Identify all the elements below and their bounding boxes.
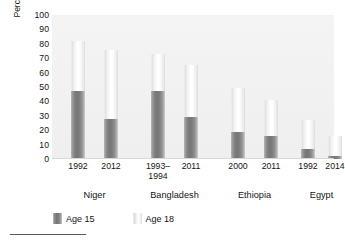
y-axis-tick-label: 80: [39, 39, 49, 48]
bar-group: [264, 15, 278, 159]
stacked-bar: [328, 136, 342, 159]
x-axis-tick-label: 2000: [228, 161, 247, 171]
group-label-ethiopia: Ethiopia: [238, 190, 271, 201]
bar-segment-age18: [231, 88, 245, 131]
legend-swatch-age-18: [133, 213, 142, 224]
bar-group: [71, 15, 85, 159]
bar-group: [104, 15, 118, 159]
bar-segment-age15: [184, 117, 198, 159]
y-axis-tick-label: 100: [35, 11, 50, 20]
stacked-bar: [104, 50, 118, 159]
group-label-egypt: Egypt: [310, 190, 334, 201]
y-axis-tick-label: 70: [39, 54, 49, 63]
bar-group: [328, 15, 342, 159]
y-axis-title-line-1: Percent of young women: [12, 0, 23, 17]
bar-segment-age15: [231, 132, 245, 159]
bar-segment-age15: [301, 149, 315, 159]
y-axis-tick-label: 0: [44, 155, 49, 164]
footnote-rule: [10, 234, 86, 235]
group-label-bangladesh: Bangladesh: [150, 190, 199, 201]
legend-label: Age 18: [146, 214, 175, 224]
stacked-bar: [301, 120, 315, 159]
stacked-bar: [264, 100, 278, 159]
bar-segment-age18: [264, 100, 278, 136]
y-axis-tick-labels: 1009080706050403020100: [27, 14, 49, 159]
y-axis-tick-label: 60: [39, 68, 49, 77]
bar-segment-age18: [71, 41, 85, 91]
legend-label: Age 15: [66, 214, 95, 224]
x-axis-tick-label: 2012: [101, 161, 120, 171]
y-axis-tick-label: 50: [39, 83, 49, 92]
y-axis-tick-label: 20: [39, 126, 49, 135]
x-axis-tick-label: 2011: [182, 161, 201, 171]
bar-segment-age15: [151, 91, 165, 159]
legend-item: Age 18: [133, 212, 175, 225]
bar-segment-age18: [184, 65, 198, 117]
bar-segment-age18: [328, 136, 342, 156]
bar-segment-age15: [71, 91, 85, 159]
stacked-bar: [71, 41, 85, 159]
stacked-bar: [151, 54, 165, 159]
x-axis-tick-label: 1992: [298, 161, 317, 171]
stacked-bar: [231, 88, 245, 159]
chart-legend: Age 15Age 18: [53, 212, 174, 225]
y-axis-tick-label: 90: [39, 25, 49, 34]
bar-group: [231, 15, 245, 159]
y-axis-tick-label: 30: [39, 111, 49, 120]
bar-segment-age18: [104, 50, 118, 119]
stacked-bar: [184, 65, 198, 159]
bar-segment-age15: [264, 136, 278, 159]
y-axis-tick-label: 10: [39, 140, 49, 149]
bar-group: [151, 15, 165, 159]
y-axis-tick-label: 40: [39, 97, 49, 106]
bar-segment-age18: [151, 54, 165, 91]
x-axis-tick-labels: 199220121993– 199420112000201119922014: [52, 161, 334, 187]
bar-segment-age15: [104, 119, 118, 159]
plot-area: [52, 15, 334, 159]
bar-group: [184, 15, 198, 159]
x-axis-tick-label: 1993– 1994: [146, 161, 170, 181]
x-axis-group-labels: NigerBangladeshEthiopiaEgypt: [52, 190, 334, 204]
bar-group: [301, 15, 315, 159]
x-axis-tick-label: 2011: [262, 161, 281, 171]
legend-swatch-age-15: [53, 213, 62, 224]
legend-item: Age 15: [53, 212, 95, 225]
x-axis-tick-label: 2014: [325, 161, 344, 171]
bar-segment-age15: [328, 156, 342, 159]
x-axis-tick-label: 1992: [68, 161, 87, 171]
bar-segment-age18: [301, 120, 315, 149]
group-label-niger: Niger: [84, 190, 106, 201]
